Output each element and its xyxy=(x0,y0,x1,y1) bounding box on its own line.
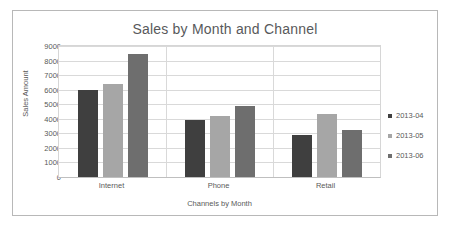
legend-swatch-icon xyxy=(387,153,393,159)
bar-group xyxy=(273,46,380,177)
legend-entry[interactable]: 2013-04 xyxy=(387,111,445,120)
legend-entry[interactable]: 2013-05 xyxy=(387,131,445,140)
x-axis-tick-label: Internet xyxy=(58,181,165,190)
legend-swatch-icon xyxy=(387,113,393,119)
y-axis-tick-label: 7000 xyxy=(31,72,61,80)
y-axis-tick-label: 1000 xyxy=(31,159,61,167)
plot-area xyxy=(58,45,381,178)
bar[interactable] xyxy=(103,84,123,177)
bar[interactable] xyxy=(78,90,98,177)
bar[interactable] xyxy=(317,114,337,177)
chart-frame: Sales by Month and Channel Sales Amount … xyxy=(12,10,438,216)
legend-label: 2013-06 xyxy=(396,151,424,160)
bar[interactable] xyxy=(210,116,230,177)
y-axis-title: Sales Amount xyxy=(21,56,30,132)
bar[interactable] xyxy=(185,120,205,177)
bar[interactable] xyxy=(235,106,255,177)
legend-swatch-icon xyxy=(387,133,393,139)
bar[interactable] xyxy=(128,54,148,177)
y-axis-tick-labels: 9000800070006000500040003000200010000 xyxy=(31,47,61,189)
bar[interactable] xyxy=(342,130,362,177)
y-axis-tick-label: 5000 xyxy=(31,101,61,109)
chart-title: Sales by Month and Channel xyxy=(13,21,437,37)
x-axis-tick-label: Phone xyxy=(165,181,272,190)
legend-entry[interactable]: 2013-06 xyxy=(387,151,445,160)
legend-label: 2013-04 xyxy=(396,111,424,120)
bar[interactable] xyxy=(292,135,312,177)
y-axis-tick-label: 6000 xyxy=(31,87,61,95)
x-axis-tick-labels: InternetPhoneRetail xyxy=(58,181,381,195)
y-axis-tick-label: 0 xyxy=(31,174,61,182)
bar-group xyxy=(59,46,166,177)
bar-group xyxy=(166,46,273,177)
y-axis-tick-label: 9000 xyxy=(31,43,61,51)
chart-legend: 2013-042013-052013-06 xyxy=(387,111,445,171)
x-axis-title: Channels by Month xyxy=(58,199,381,208)
y-axis-tick-label: 8000 xyxy=(31,58,61,66)
y-axis-tick-label: 2000 xyxy=(31,145,61,153)
y-axis-tick-label: 3000 xyxy=(31,130,61,138)
y-axis-tick-label: 4000 xyxy=(31,116,61,124)
x-axis-tick-label: Retail xyxy=(272,181,379,190)
legend-label: 2013-05 xyxy=(396,131,424,140)
